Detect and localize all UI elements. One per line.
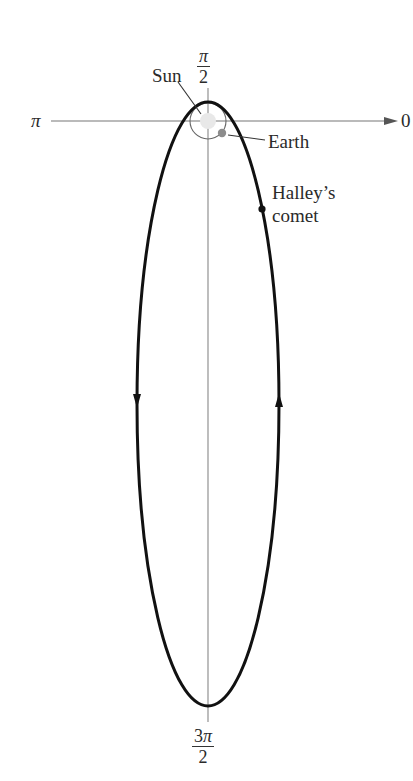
axis-label-zero: 0 [401, 111, 411, 130]
direction-arrow-down-icon [133, 394, 141, 408]
bottom-label-symbol: π [203, 726, 212, 746]
sun-leader-line [178, 82, 201, 114]
axis-arrow-icon [384, 117, 398, 125]
top-label-numerator: π [197, 47, 210, 66]
comet-icon [258, 205, 265, 212]
comet-label-line1: Halley’s [272, 183, 335, 202]
top-label-denominator: 2 [199, 67, 208, 86]
sun-icon [200, 113, 216, 129]
earth-leader-line [228, 135, 265, 140]
orbit-figure [0, 0, 413, 781]
bottom-label-coef: 3 [194, 726, 203, 746]
comet-label-line2: comet [272, 206, 318, 225]
axis-label-3pi-over-2: 3π 2 [192, 727, 214, 766]
sun-label: Sun [152, 66, 182, 85]
earth-label: Earth [268, 132, 309, 151]
direction-arrow-up-icon [275, 393, 283, 407]
polar-diagram: π 2 3π 2 π 0 Sun Earth Halley’s comet [0, 0, 413, 781]
axis-label-pi: π [31, 111, 41, 130]
axis-label-pi-over-2: π 2 [197, 47, 210, 86]
earth-icon [218, 129, 226, 137]
bottom-label-denominator: 2 [199, 747, 208, 766]
